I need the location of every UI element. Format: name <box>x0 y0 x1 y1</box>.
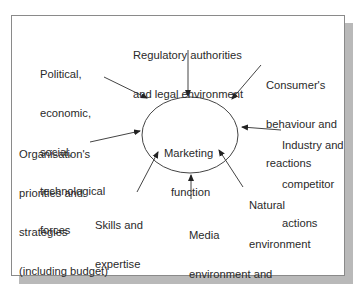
factor-line: and legal environment <box>133 88 243 101</box>
factor-line: economic, <box>40 107 105 120</box>
factor-line: Consumer's <box>266 79 337 92</box>
factor-media: Media environment and marketing communic… <box>189 203 272 290</box>
factor-line: (including budget) <box>19 265 108 278</box>
center-label-line: Marketing <box>164 147 213 160</box>
factor-line: forces <box>40 224 105 237</box>
factor-pest: Political, economic, social, technologic… <box>40 42 105 250</box>
factor-line: Regulatory authorities <box>133 49 243 62</box>
center-label: Marketing function <box>164 121 213 212</box>
center-label-line: function <box>164 186 213 199</box>
factor-line: Political, <box>40 68 105 81</box>
factor-line: Industry and <box>282 139 344 152</box>
factor-line: social, <box>40 146 105 159</box>
arrow-skills <box>137 152 158 192</box>
factor-line: environment and <box>189 268 272 281</box>
factor-line: technological <box>40 185 105 198</box>
factor-regulatory: Regulatory authorities and legal environ… <box>133 23 243 114</box>
factor-line: Media <box>189 229 272 242</box>
